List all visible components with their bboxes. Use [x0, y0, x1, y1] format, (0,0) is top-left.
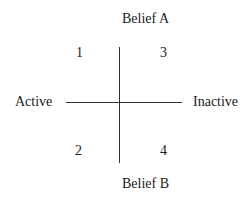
quadrant-number-1: 1 — [76, 45, 83, 61]
quadrant-number-2: 2 — [75, 143, 82, 159]
horizontal-axis-line — [66, 102, 182, 103]
quadrant-number-3: 3 — [160, 45, 167, 61]
vertical-axis-line — [119, 47, 120, 163]
axis-label-active: Active — [15, 94, 52, 110]
axis-label-inactive: Inactive — [193, 94, 238, 110]
axis-label-belief-b: Belief B — [122, 176, 169, 192]
quadrant-number-4: 4 — [160, 143, 167, 159]
axis-label-belief-a: Belief A — [122, 11, 169, 27]
